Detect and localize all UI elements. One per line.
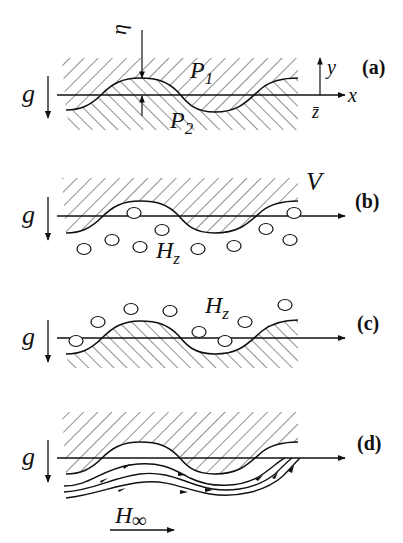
gravity-label: g <box>22 322 35 351</box>
upper-medium-region <box>62 412 298 474</box>
gravity-label: g <box>22 200 35 229</box>
panel-tag-d: (d) <box>357 432 381 455</box>
panel-tag-a: (a) <box>362 56 385 79</box>
x-axis-label: x <box>347 84 357 106</box>
gravity-label: g <box>22 442 35 471</box>
medium-v-label: V <box>306 167 325 196</box>
panel-tag-b: (b) <box>355 190 379 213</box>
figure: η P1 P2 y x z̄ (a) g Hz V (b) <box>0 0 403 543</box>
z-axis-label: z̄ <box>311 102 320 122</box>
eta-label: η <box>106 24 131 35</box>
panel-c: Hz (c) g <box>22 292 379 368</box>
field-hz-label: Hz <box>155 237 180 268</box>
panel-tag-c: (c) <box>357 312 379 335</box>
panel-b: Hz V (b) g <box>22 167 379 268</box>
field-hz-label: Hz <box>204 292 229 323</box>
panel-d: H∞ (d) g <box>22 412 381 531</box>
gravity-label: g <box>22 79 35 108</box>
panel-a: η P1 P2 y x z̄ (a) g <box>22 24 385 138</box>
y-axis-label: y <box>325 56 336 79</box>
field-hinf-label: H∞ <box>114 502 147 531</box>
